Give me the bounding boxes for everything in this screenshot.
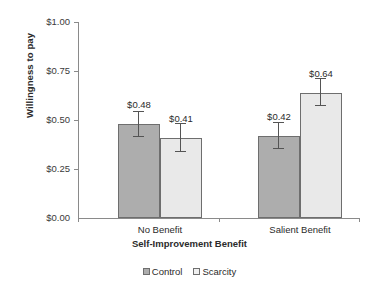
plot-area: $1.00 $0.75 $0.50 $0.25 $0.00 $0.48 $0.4… <box>78 22 360 218</box>
y-tick-0.75 <box>74 71 78 72</box>
x-axis-title: Self-Improvement Benefit <box>0 238 379 249</box>
error-bar-stem <box>180 123 181 152</box>
y-tick-0.50 <box>74 120 78 121</box>
y-tick-0.25 <box>74 169 78 170</box>
error-bar-cap-bottom <box>175 151 186 152</box>
value-label-salient-benefit-scarcity: $0.64 <box>299 69 343 79</box>
legend-swatch-scarcity-icon <box>193 268 200 275</box>
value-label-salient-benefit-control: $0.42 <box>257 112 301 122</box>
legend-swatch-control-icon <box>143 268 150 275</box>
value-label-no-benefit-scarcity: $0.41 <box>159 114 203 124</box>
y-tick-1.00 <box>74 22 78 23</box>
x-sep-tick-left <box>78 218 79 222</box>
error-bar-cap-bottom <box>133 136 144 137</box>
x-sep-tick-right <box>359 218 360 222</box>
error-bar-cap-bottom <box>273 148 284 149</box>
error-bar-stem <box>320 78 321 106</box>
bar-salient-benefit-scarcity <box>300 93 342 218</box>
legend-item-control: Control <box>143 266 183 277</box>
y-tick-label-0.75: $0.75 <box>24 66 70 76</box>
y-tick-label-0.50: $0.50 <box>24 115 70 125</box>
error-bar-salient-benefit-scarcity <box>315 78 326 106</box>
legend-label-scarcity: Scarcity <box>202 266 236 277</box>
chart-container: Willingness to pay $1.00 $0.75 $0.50 $0.… <box>0 0 379 287</box>
x-category-label-salient-benefit: Salient Benefit <box>240 224 360 235</box>
error-bar-stem <box>278 122 279 149</box>
error-bar-cap-bottom <box>315 105 326 106</box>
error-bar-salient-benefit-control <box>273 122 284 149</box>
error-bar-cap-top <box>133 111 144 112</box>
chart-legend: Control Scarcity <box>0 266 379 277</box>
error-bar-no-benefit-control <box>133 111 144 137</box>
value-label-no-benefit-control: $0.48 <box>117 100 161 110</box>
bar-no-benefit-control <box>118 124 160 218</box>
error-bar-cap-top <box>273 122 284 123</box>
y-axis-line <box>78 22 79 218</box>
y-tick-label-0.00: $0.00 <box>24 213 70 223</box>
y-tick-label-0.25: $0.25 <box>24 164 70 174</box>
legend-item-scarcity: Scarcity <box>193 266 236 277</box>
error-bar-no-benefit-scarcity <box>175 123 186 152</box>
error-bar-stem <box>138 111 139 137</box>
y-tick-label-1.00: $1.00 <box>24 17 70 27</box>
x-sep-tick-mid <box>219 218 220 222</box>
x-category-label-no-benefit: No Benefit <box>100 224 220 235</box>
legend-label-control: Control <box>152 266 183 277</box>
